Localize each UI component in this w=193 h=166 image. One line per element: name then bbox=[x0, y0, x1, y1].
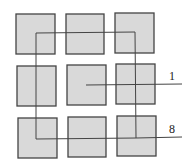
square-7 bbox=[18, 118, 57, 158]
label-8: 8 bbox=[169, 122, 175, 136]
grid-diagram: 1 8 bbox=[0, 0, 193, 166]
square-2 bbox=[66, 14, 104, 54]
square-3 bbox=[115, 13, 154, 53]
square-8 bbox=[68, 117, 106, 157]
square-9 bbox=[117, 116, 156, 156]
label-1: 1 bbox=[169, 69, 175, 83]
